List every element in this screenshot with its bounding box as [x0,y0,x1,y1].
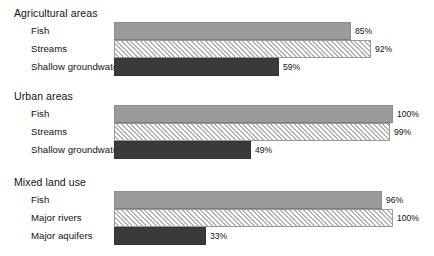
bar-row: Shallow groundwater49% [0,141,434,159]
bar-value-label: 99% [390,123,411,141]
bar-category-label: Shallow groundwater [31,58,122,76]
bar-category-label: Fish [31,105,49,123]
bar-track: 100% [114,105,393,123]
bar-category-label: Major aquifers [31,227,93,245]
bar-row: Major rivers100% [0,209,434,227]
bar-row: Streams92% [0,40,434,58]
bar [114,58,279,76]
bar-track: 92% [114,40,393,58]
bar-rows: Fish85%Streams92%Shallow groundwater59% [0,22,434,76]
group-title: Urban areas [14,90,73,102]
bar-track: 99% [114,123,393,141]
group-title: Agricultural areas [14,7,98,19]
bar-value-label: 96% [382,191,403,209]
bar [114,123,390,141]
bar [114,227,206,245]
bar-row: Streams99% [0,123,434,141]
bar-row: Shallow groundwater59% [0,58,434,76]
bar-track: 85% [114,22,393,40]
bar-category-label: Streams [31,40,67,58]
bar [114,22,351,40]
bar-category-label: Fish [31,191,49,209]
bar-category-label: Major rivers [31,209,82,227]
bar-row: Major aquifers33% [0,227,434,245]
bar-track: 59% [114,58,393,76]
grouped-bar-chart: Agricultural areasFish85%Streams92%Shall… [0,0,434,256]
bar-value-label: 33% [206,227,227,245]
bar-value-label: 49% [251,141,272,159]
bar-value-label: 100% [393,209,419,227]
bar-category-label: Fish [31,22,49,40]
bar-rows: Fish96%Major rivers100%Major aquifers33% [0,191,434,245]
bar [114,40,371,58]
bar [114,141,251,159]
bar-track: 49% [114,141,393,159]
bar [114,191,382,209]
bar-row: Fish96% [0,191,434,209]
bar-track: 100% [114,209,393,227]
bar-row: Fish85% [0,22,434,40]
bar-rows: Fish100%Streams99%Shallow groundwater49% [0,105,434,159]
bar-value-label: 59% [279,58,300,76]
bar-row: Fish100% [0,105,434,123]
group-title: Mixed land use [14,176,86,188]
bar-value-label: 85% [351,22,372,40]
bar-category-label: Shallow groundwater [31,141,122,159]
bar-category-label: Streams [31,123,67,141]
bar-value-label: 92% [371,40,392,58]
bar [114,105,393,123]
bar-track: 96% [114,191,393,209]
bar [114,209,393,227]
bar-track: 33% [114,227,393,245]
bar-value-label: 100% [393,105,419,123]
